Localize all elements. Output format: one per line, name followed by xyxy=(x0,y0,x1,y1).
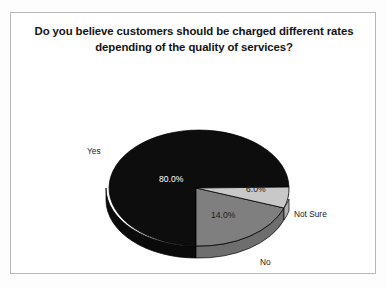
pie-label-no: No xyxy=(260,257,271,267)
pie-value-not-sure: 6.0% xyxy=(246,184,266,194)
chart-frame: Do you believe customers should be charg… xyxy=(10,12,376,274)
pie-chart-plot-area: Yes Not Sure No 80.0% 14.0% 6.0% xyxy=(11,68,375,273)
pie-value-no: 14.0% xyxy=(211,210,235,220)
pie-value-yes: 80.0% xyxy=(159,174,183,184)
pie-chart-svg xyxy=(11,68,375,273)
pie-label-yes: Yes xyxy=(87,146,101,156)
chart-page: Do you believe customers should be charg… xyxy=(0,0,387,289)
page-title: Do you believe customers should be charg… xyxy=(29,23,359,55)
pie-label-not-sure: Not Sure xyxy=(294,209,327,219)
